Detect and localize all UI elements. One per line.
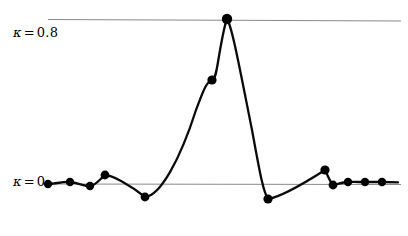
data-point xyxy=(66,178,74,186)
kappa-symbol: κ xyxy=(13,174,22,189)
curvature-curve xyxy=(48,19,398,199)
kappa-zero-value: 0 xyxy=(37,174,45,189)
data-point-peak xyxy=(222,14,232,24)
kappa-symbol: κ xyxy=(13,25,22,40)
curvature-plot-figure: κ=0.8 κ=0 xyxy=(0,0,408,236)
equals-sign: = xyxy=(22,25,37,40)
data-point-markers xyxy=(44,14,386,204)
data-point xyxy=(378,178,386,186)
data-point xyxy=(361,178,369,186)
data-point xyxy=(141,193,150,202)
data-point xyxy=(263,194,272,203)
data-point xyxy=(329,181,338,190)
data-point xyxy=(344,178,352,186)
equals-sign: = xyxy=(22,174,37,189)
kappa-high-value: 0.8 xyxy=(37,25,58,40)
axis-label-kappa-zero: κ=0 xyxy=(13,174,45,189)
data-point xyxy=(320,165,329,174)
data-point xyxy=(207,75,216,84)
plot-canvas xyxy=(0,0,408,236)
axis-label-kappa-high: κ=0.8 xyxy=(13,25,58,40)
data-point xyxy=(101,171,110,180)
data-point xyxy=(86,182,94,190)
